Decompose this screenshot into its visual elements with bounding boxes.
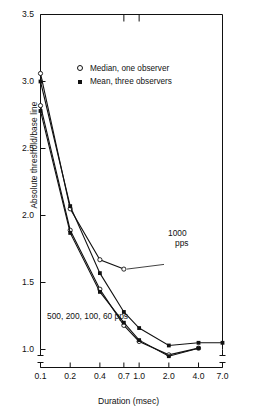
y-tick-label: 1.5 xyxy=(8,277,34,287)
data-point-filled xyxy=(167,354,171,358)
x-tick-label: 2.0 xyxy=(156,371,182,381)
data-point-filled xyxy=(68,231,72,235)
legend-item-mean: Mean, three observers xyxy=(74,75,172,88)
x-axis-title: Duration (msec) xyxy=(0,396,257,406)
data-point-filled xyxy=(68,204,72,208)
data-point-filled xyxy=(197,341,201,345)
x-tick-label: 4.0 xyxy=(186,371,212,381)
data-point-filled xyxy=(221,341,225,345)
y-tick-label: 1.0 xyxy=(8,344,34,354)
filled-square-icon xyxy=(74,75,86,88)
data-point-filled xyxy=(39,109,43,113)
data-point-filled xyxy=(39,80,43,84)
data-point-filled xyxy=(167,344,171,348)
annotation-1000-pps: 1000 pps xyxy=(168,228,189,248)
x-tick-label: 0.1 xyxy=(28,371,54,381)
data-point-open xyxy=(38,104,42,108)
series-line xyxy=(41,73,124,269)
data-point-filled xyxy=(98,290,102,294)
data-point-open xyxy=(98,258,102,262)
x-tick-label: 0.2 xyxy=(57,371,83,381)
annotation-low-rates: 500, 200, 100, 60 pps xyxy=(47,311,128,321)
annotation-leader-line xyxy=(127,264,164,269)
data-point-filled xyxy=(122,321,126,325)
data-point-filled xyxy=(197,346,201,350)
y-tick-label: 2.5 xyxy=(8,143,34,153)
legend-item-median: Median, one observer xyxy=(74,62,172,75)
figure-container: Absolute threshold/base line Duration (m… xyxy=(0,0,257,418)
x-tick-label: 0.4 xyxy=(87,371,113,381)
chart-legend: Median, one observer Mean, three observe… xyxy=(74,62,172,88)
open-circle-icon xyxy=(74,62,86,75)
legend-label-mean: Mean, three observers xyxy=(90,75,172,88)
series-line xyxy=(41,82,223,346)
data-point-open xyxy=(122,267,126,271)
annotation-1000-line1: 1000 xyxy=(168,228,187,238)
y-tick-label: 3.5 xyxy=(8,9,34,19)
y-tick-label: 3.0 xyxy=(8,76,34,86)
data-point-open xyxy=(38,71,42,75)
legend-label-median: Median, one observer xyxy=(90,62,169,75)
x-tick-label: 1.0 xyxy=(126,371,152,381)
x-tick-label: 7.0 xyxy=(210,371,236,381)
data-point-filled xyxy=(137,338,141,342)
data-point-filled xyxy=(98,271,102,275)
y-tick-label: 2.0 xyxy=(8,210,34,220)
data-point-filled xyxy=(137,326,141,330)
annotation-1000-line2: pps xyxy=(168,238,189,248)
